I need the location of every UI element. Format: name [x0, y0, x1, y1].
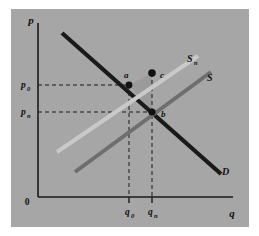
point-c-marker [148, 69, 156, 77]
curve-demand [62, 33, 221, 174]
y-tick-pn-base: p [20, 107, 26, 117]
x-tick-q0-sub: 0 [131, 212, 135, 219]
x-tick-label-q0: q 0 [125, 207, 135, 219]
curve-label-sn-sub: n [194, 59, 198, 66]
y-axis-label: p [27, 14, 34, 26]
curve-label-sn-base: S [187, 53, 193, 64]
axes [38, 23, 233, 197]
curve-label-supply: S [207, 72, 213, 83]
x-tick-label-qn: q n [148, 207, 158, 219]
curve-label-demand: D [221, 166, 229, 177]
origin-label: 0 [25, 197, 30, 207]
y-tick-label-pn: p n [20, 107, 31, 119]
y-tick-p0-base: p [20, 80, 26, 90]
point-label-c: c [160, 70, 164, 80]
chart-panel: p q 0 p 0 p n q 0 q n S [11, 9, 249, 227]
point-label-a: a [124, 70, 129, 80]
y-tick-pn-sub: n [27, 112, 31, 119]
axis-ticks [129, 197, 152, 203]
supply-demand-chart: p q 0 p 0 p n q 0 q n S [11, 9, 249, 227]
figure-root: p q 0 p 0 p n q 0 q n S [0, 0, 259, 236]
x-tick-qn-base: q [148, 207, 153, 217]
x-axis-label: q [229, 207, 235, 219]
shaded-triangle-abc [129, 73, 152, 112]
y-tick-p0-sub: 0 [27, 85, 31, 92]
point-a-marker [126, 82, 133, 89]
point-label-b: b [161, 109, 166, 119]
x-tick-qn-sub: n [154, 212, 158, 219]
y-tick-label-p0: p 0 [20, 80, 31, 92]
x-tick-q0-base: q [125, 207, 130, 217]
point-b-marker [148, 108, 155, 115]
